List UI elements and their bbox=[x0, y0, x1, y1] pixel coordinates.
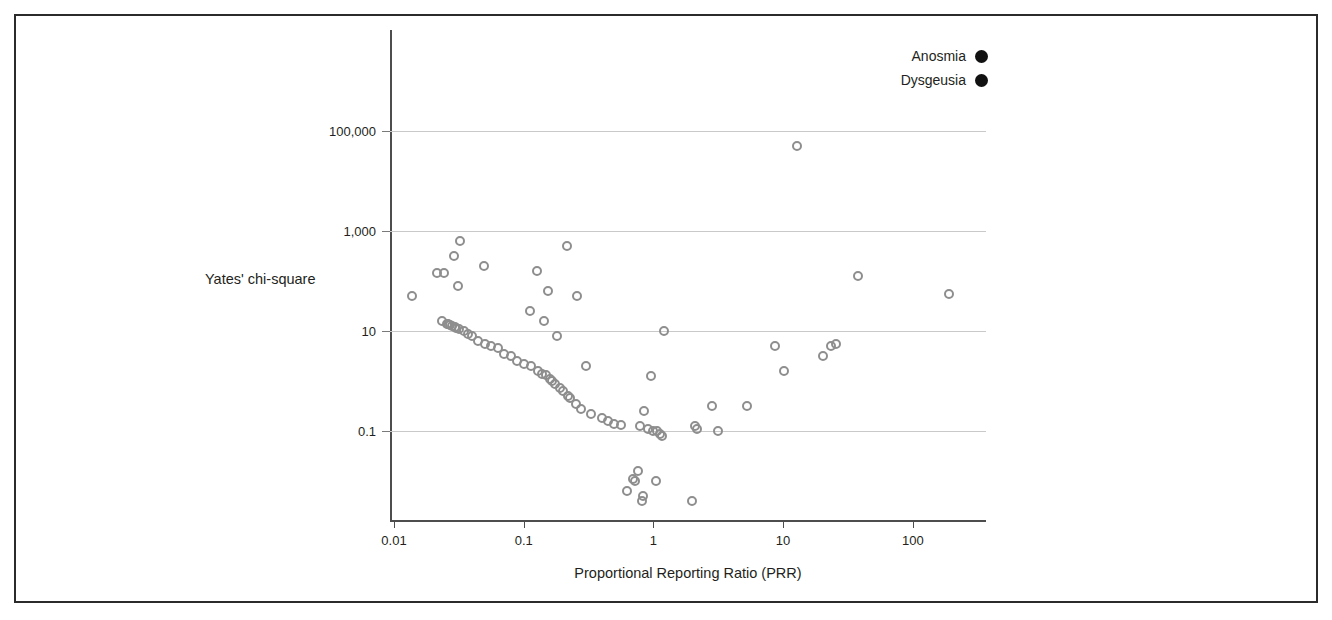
x-tick bbox=[913, 520, 914, 528]
legend-label-dysgeusia: Dysgeusia bbox=[901, 72, 966, 88]
gridline-y bbox=[390, 431, 986, 432]
x-tick-label: 0.01 bbox=[381, 533, 406, 548]
legend-label-anosmia: Anosmia bbox=[912, 48, 966, 64]
scatter-point bbox=[742, 401, 752, 411]
x-axis-title: Proportional Reporting Ratio (PRR) bbox=[574, 565, 801, 581]
scatter-point bbox=[539, 316, 549, 326]
scatter-point bbox=[770, 341, 780, 351]
scatter-point bbox=[562, 241, 572, 251]
scatter-point bbox=[944, 289, 954, 299]
scatter-point bbox=[792, 141, 802, 151]
scatter-point bbox=[479, 261, 489, 271]
gridline-y bbox=[390, 331, 986, 332]
scatter-point bbox=[687, 496, 697, 506]
scatter-point bbox=[831, 339, 841, 349]
scatter-point bbox=[692, 424, 702, 434]
plot-area: 0.010.1110100 0.1101,000100,000 bbox=[390, 30, 986, 522]
scatter-point bbox=[581, 361, 591, 371]
y-tick-label: 0.1 bbox=[358, 424, 376, 439]
gridline-y bbox=[390, 231, 986, 232]
x-tick bbox=[783, 520, 784, 528]
scatter-point bbox=[779, 366, 789, 376]
y-tick-label: 100,000 bbox=[329, 124, 376, 139]
y-axis-line bbox=[390, 30, 392, 522]
y-tick bbox=[382, 331, 390, 332]
scatter-point bbox=[630, 476, 640, 486]
y-tick bbox=[382, 131, 390, 132]
x-tick bbox=[653, 520, 654, 528]
legend-marker-dysgeusia-icon bbox=[975, 74, 988, 87]
scatter-point bbox=[646, 371, 656, 381]
legend-marker-anosmia-icon bbox=[975, 50, 988, 63]
y-tick-label: 10 bbox=[362, 324, 376, 339]
gridline-y bbox=[390, 131, 986, 132]
scatter-point bbox=[455, 236, 465, 246]
scatter-point bbox=[638, 491, 648, 501]
scatter-point bbox=[633, 466, 643, 476]
y-tick bbox=[382, 431, 390, 432]
figure-container: Yates' chi-square Proportional Reporting… bbox=[0, 0, 1332, 620]
legend-item-anosmia: Anosmia bbox=[848, 44, 988, 68]
scatter-point bbox=[853, 271, 863, 281]
scatter-point bbox=[543, 286, 553, 296]
scatter-point bbox=[407, 291, 417, 301]
scatter-point bbox=[651, 476, 661, 486]
scatter-point bbox=[616, 420, 626, 430]
x-tick-label: 100 bbox=[902, 533, 924, 548]
scatter-point bbox=[622, 486, 632, 496]
scatter-point bbox=[572, 291, 582, 301]
scatter-point bbox=[532, 266, 542, 276]
x-tick-label: 10 bbox=[776, 533, 790, 548]
scatter-point bbox=[639, 406, 649, 416]
y-axis-title: Yates' chi-square bbox=[205, 271, 316, 287]
scatter-point bbox=[657, 431, 667, 441]
scatter-point bbox=[818, 351, 828, 361]
legend: Anosmia Dysgeusia bbox=[848, 44, 988, 92]
x-tick-label: 0.1 bbox=[515, 533, 533, 548]
legend-item-dysgeusia: Dysgeusia bbox=[848, 68, 988, 92]
x-tick-label: 1 bbox=[650, 533, 657, 548]
x-tick bbox=[394, 520, 395, 528]
scatter-point bbox=[525, 306, 535, 316]
scatter-point bbox=[552, 331, 562, 341]
y-tick bbox=[382, 231, 390, 232]
y-tick-label: 1,000 bbox=[343, 224, 376, 239]
scatter-point bbox=[439, 268, 449, 278]
scatter-point bbox=[659, 326, 669, 336]
scatter-point bbox=[576, 404, 586, 414]
scatter-point bbox=[713, 426, 723, 436]
scatter-point bbox=[707, 401, 717, 411]
scatter-point bbox=[586, 409, 596, 419]
scatter-point bbox=[449, 251, 459, 261]
scatter-point bbox=[453, 281, 463, 291]
x-axis-line bbox=[390, 520, 986, 522]
x-tick bbox=[524, 520, 525, 528]
